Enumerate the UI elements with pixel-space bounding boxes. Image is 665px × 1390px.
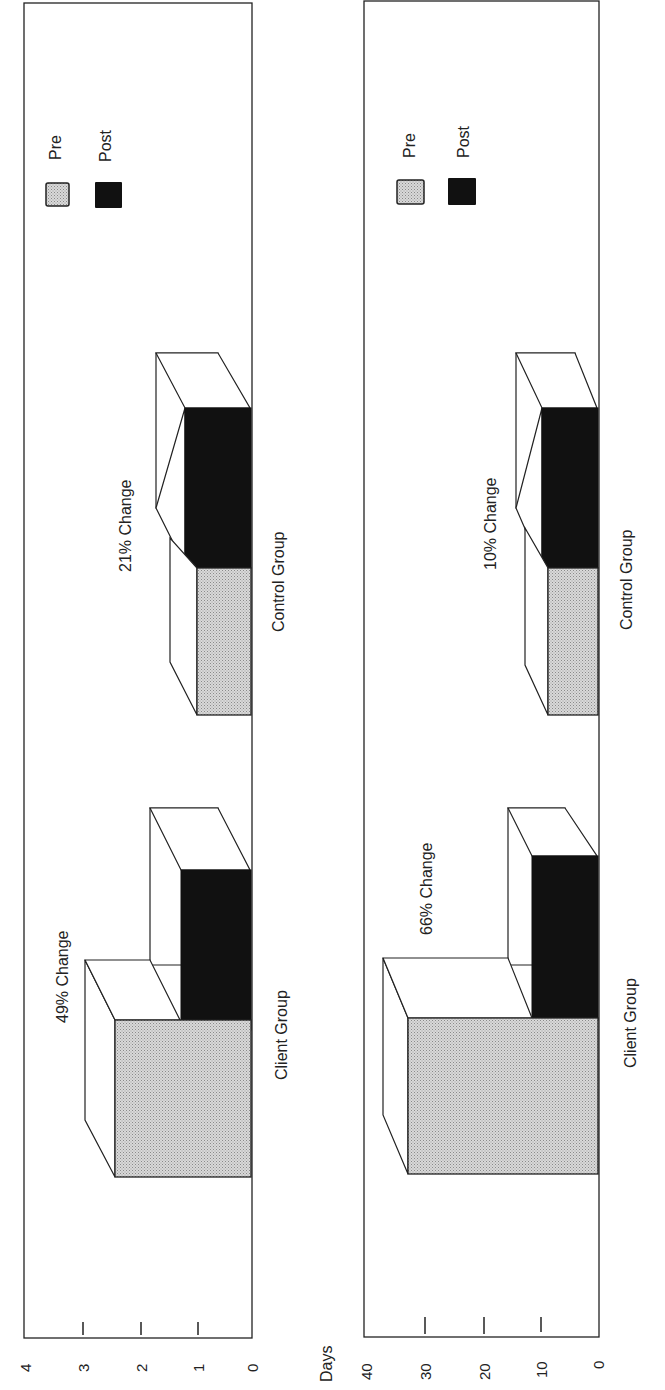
tick-label: 30 xyxy=(417,1363,434,1380)
category-label-control: Control Group xyxy=(618,529,635,630)
legend-swatch-post xyxy=(95,182,122,208)
bar-control-post xyxy=(156,353,251,568)
legend-swatch-pre xyxy=(397,180,424,204)
tick-label: 40 xyxy=(358,1363,375,1380)
legend-label-post: Post xyxy=(455,125,472,158)
category-label-client: Client Group xyxy=(622,978,639,1068)
category-label-control: Control Group xyxy=(270,531,287,632)
category-label-client: Client Group xyxy=(273,990,290,1080)
chart-bottom-tick-labels: 0 10 20 30 40 xyxy=(358,1361,607,1380)
tick-label: 10 xyxy=(533,1361,550,1378)
tick-label: 0 xyxy=(244,1364,261,1372)
annotation-client-change: 49% Change xyxy=(54,930,71,1023)
annotation-client-change: 66% Change xyxy=(418,842,435,935)
tick-label: 20 xyxy=(476,1363,493,1380)
tick-label: 3 xyxy=(75,1364,92,1372)
annotation-control-change: 21% Change xyxy=(117,479,134,572)
legend-swatch-pre xyxy=(46,183,69,206)
legend-label-pre: Pre xyxy=(47,135,64,160)
legend-label-pre: Pre xyxy=(401,133,418,158)
tick-label: 4 xyxy=(17,1364,34,1372)
legend-swatch-post xyxy=(448,178,476,205)
chart-top: 0 1 2 3 4 49% C xyxy=(17,3,290,1372)
y-axis-label-days: Days xyxy=(318,1346,335,1382)
tick-label: 2 xyxy=(133,1364,150,1372)
chart-top-tick-labels: 0 1 2 3 4 xyxy=(17,1364,261,1372)
annotation-control-change: 10% Change xyxy=(482,477,499,570)
tick-label: 1 xyxy=(190,1364,207,1372)
tick-label: 0 xyxy=(590,1361,607,1369)
chart-canvas: 0 1 2 3 4 49% C xyxy=(0,0,665,1390)
legend-label-post: Post xyxy=(97,129,114,162)
chart-bottom: 0 10 20 30 40 Days xyxy=(318,1,639,1382)
